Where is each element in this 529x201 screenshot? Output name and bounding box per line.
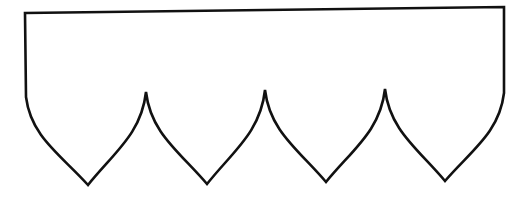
scalloped-banner-diagram xyxy=(0,0,529,201)
